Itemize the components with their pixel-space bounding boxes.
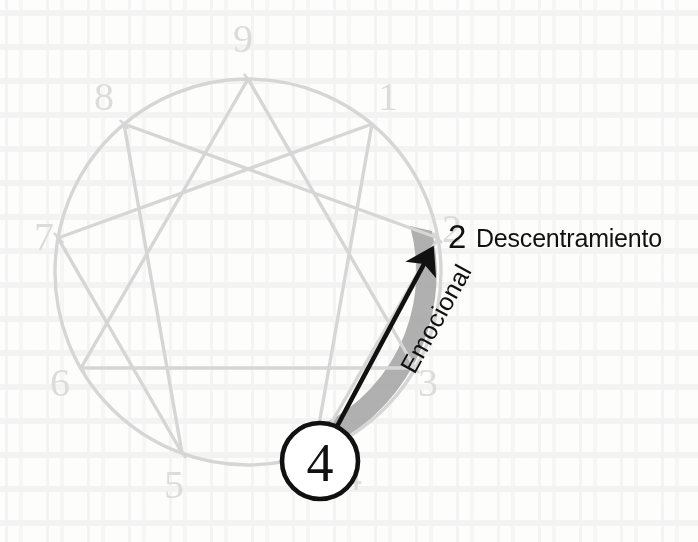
- point-number-9: 9: [233, 16, 253, 61]
- type-marker-four: 4: [282, 423, 358, 499]
- point-number-8: 8: [94, 74, 114, 119]
- target-point-number: 2: [448, 220, 466, 253]
- point-number-6: 6: [50, 360, 70, 405]
- type-marker-four-number: 4: [307, 433, 334, 493]
- point-number-5: 5: [164, 462, 184, 507]
- enneagram-diagram-page: 9 1 2 3 4 5 6 7 8 4 2 Descentramiento Em…: [0, 0, 698, 542]
- point-number-7: 7: [34, 214, 54, 259]
- point-number-1: 1: [378, 74, 398, 119]
- enneagram-triangle-936: [81, 79, 415, 368]
- enneagram-figure: 9 1 2 3 4 5 6 7 8 4: [0, 0, 698, 542]
- enneagram-outer-circle: [55, 79, 441, 465]
- target-point-label: Descentramiento: [476, 226, 662, 251]
- enneagram-point-numbers: 9 1 2 3 4 5 6 7 8: [34, 16, 462, 507]
